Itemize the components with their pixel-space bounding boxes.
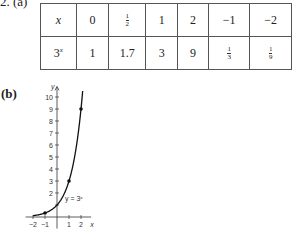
x-tick-label: −1 (41, 221, 49, 228)
x-tick-label: 1 (67, 221, 71, 228)
exponential-graph: −2−112x2345678910yy = 3ˣ (0, 0, 292, 236)
data-point (67, 179, 71, 183)
x-tick-label: −2 (29, 221, 37, 228)
x-axis-label: x (89, 221, 94, 228)
y-tick-label: 3 (49, 178, 53, 185)
y-tick-label: 10 (45, 94, 53, 101)
y-tick-label: 9 (49, 106, 53, 113)
y-tick-label: 6 (49, 142, 53, 149)
y-tick-label: 5 (49, 154, 53, 161)
curve-label: y = 3ˣ (65, 195, 83, 203)
data-point (79, 107, 83, 111)
y-tick-label: 8 (49, 118, 53, 125)
y-tick-label: 7 (49, 130, 53, 137)
y-tick-label: 4 (49, 166, 53, 173)
y-axis-label: y (50, 83, 55, 91)
x-tick-label: 2 (79, 221, 83, 228)
data-point (43, 211, 47, 215)
y-tick-label: 2 (49, 190, 53, 197)
